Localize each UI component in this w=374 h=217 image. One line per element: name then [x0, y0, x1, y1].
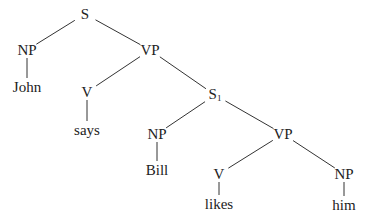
leaf-him: him	[332, 198, 355, 213]
syntax-tree-diagram: S NP John VP V says S1 NP Bill VP V like…	[0, 0, 374, 217]
leaf-says: says	[74, 123, 100, 138]
node-v-embedded: V	[214, 167, 225, 182]
node-vp-main: VP	[140, 43, 159, 58]
tree-edge	[293, 141, 335, 168]
node-vp-embedded: VP	[273, 127, 292, 142]
leaf-bill: Bill	[146, 163, 169, 178]
tree-edges	[0, 0, 374, 217]
tree-edge	[96, 57, 140, 86]
leaf-john: John	[13, 80, 41, 95]
leaf-likes: likes	[205, 197, 233, 212]
node-v-main: V	[82, 85, 93, 100]
tree-edge	[228, 140, 272, 168]
node-np-object: NP	[334, 167, 353, 182]
node-np-subject: NP	[17, 43, 36, 58]
tree-edge	[166, 102, 205, 128]
tree-edge	[160, 57, 206, 89]
tree-edge	[95, 20, 140, 45]
node-s: S	[81, 7, 89, 22]
node-np-embedded-subject: NP	[147, 127, 166, 142]
tree-edge	[225, 101, 273, 129]
node-s1: S1	[209, 87, 222, 103]
tree-edge	[36, 20, 74, 44]
